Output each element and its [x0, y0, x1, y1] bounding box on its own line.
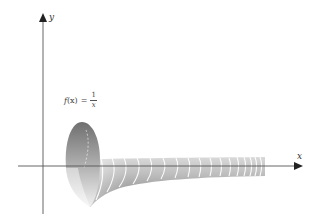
formula-argument: (x): [67, 96, 78, 105]
formula-equals: =: [81, 96, 88, 105]
formula-numerator: 1: [90, 92, 96, 101]
y-axis-arrow-icon: [39, 13, 47, 22]
gabriels-horn-diagram: [0, 0, 317, 222]
x-axis-arrow-icon: [294, 162, 303, 170]
x-axis-label: x: [297, 151, 302, 161]
formula-denominator: x: [92, 101, 96, 109]
y-axis-label: y: [49, 12, 54, 22]
function-formula: f(x) = 1 x: [64, 92, 97, 109]
formula-fraction: 1 x: [90, 92, 96, 109]
